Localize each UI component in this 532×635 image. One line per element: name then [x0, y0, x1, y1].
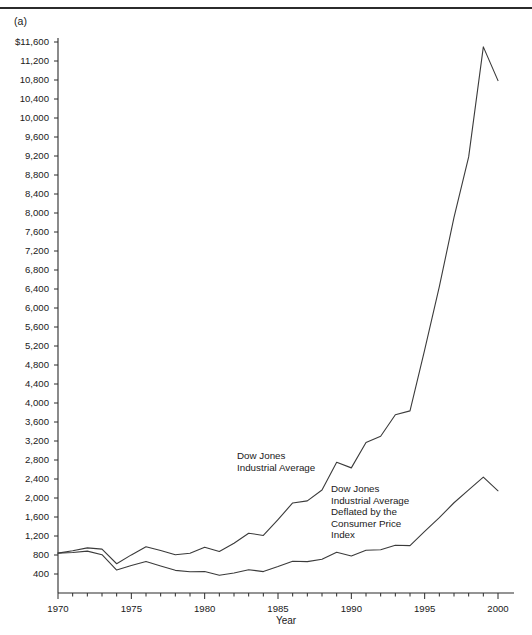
y-tick-label: 1,600	[25, 511, 49, 522]
y-tick-label: 5,200	[25, 340, 49, 351]
y-tick-label: 7,600	[25, 226, 49, 237]
y-tick-label: 8,800	[25, 169, 49, 180]
x-axis-title: Year	[276, 615, 297, 626]
y-tick-label: 1,200	[25, 530, 49, 541]
y-tick-label: 9,600	[25, 131, 49, 142]
line-chart: 4008001,2001,6002,0002,4002,8003,2003,60…	[0, 0, 532, 635]
y-tick-label: 6,800	[25, 264, 49, 275]
y-tick-label: 2,800	[25, 454, 49, 465]
nominal-series-label: Dow JonesIndustrial Average	[237, 450, 316, 473]
y-tick-label: $11,600	[15, 36, 49, 47]
series-annotations: Dow JonesIndustrial AverageDow JonesIndu…	[237, 450, 410, 540]
y-tick-label: 10,400	[20, 93, 49, 104]
y-tick-label: 4,000	[25, 397, 49, 408]
x-tick-label: 1995	[414, 603, 435, 614]
y-tick-label: 3,600	[25, 416, 49, 427]
y-tick-label: 6,000	[25, 302, 49, 313]
annotation-line: Industrial Average	[331, 495, 410, 506]
y-tick-label: 2,400	[25, 473, 49, 484]
x-tick-label: 1980	[194, 603, 215, 614]
annotation-line: Dow Jones	[237, 450, 286, 461]
y-tick-label: 3,200	[25, 435, 49, 446]
x-tick-label: 1990	[341, 603, 362, 614]
y-tick-label: 9,200	[25, 150, 49, 161]
y-tick-label: 800	[33, 549, 49, 560]
series-lines	[58, 47, 498, 575]
series-line-nominal-djia	[58, 47, 498, 564]
y-tick-label: 8,000	[25, 207, 49, 218]
y-tick-label: 6,400	[25, 283, 49, 294]
x-tick-label: 1975	[121, 603, 142, 614]
y-tick-label: 5,600	[25, 321, 49, 332]
y-tick-label: 11,200	[20, 55, 49, 66]
x-axis: 1970197519801985199019952000	[47, 593, 514, 614]
y-tick-label: 10,800	[20, 74, 49, 85]
y-tick-label: 4,800	[25, 359, 49, 370]
annotation-line: Deflated by the	[331, 506, 397, 517]
y-axis: 4008001,2001,6002,0002,4002,8003,2003,60…	[15, 36, 58, 593]
y-tick-label: 400	[33, 568, 49, 579]
x-tick-label: 2000	[487, 603, 508, 614]
y-tick-label: 7,200	[25, 245, 49, 256]
x-tick-label: 1985	[267, 603, 288, 614]
y-tick-label: 8,400	[25, 188, 49, 199]
chart-page: (a) 4008001,2001,6002,0002,4002,8003,200…	[0, 0, 532, 635]
annotation-line: Consumer Price	[331, 518, 402, 529]
x-tick-label: 1970	[47, 603, 68, 614]
annotation-line: Dow Jones	[331, 483, 380, 494]
y-tick-label: 2,000	[25, 492, 49, 503]
deflated-series-label: Dow JonesIndustrial AverageDeflated by t…	[331, 483, 410, 540]
annotation-line: Industrial Average	[237, 462, 316, 473]
y-tick-label: 4,400	[25, 378, 49, 389]
annotation-line: Index	[331, 529, 355, 540]
y-tick-label: 10,000	[20, 112, 49, 123]
series-line-deflated-djia	[58, 477, 498, 575]
